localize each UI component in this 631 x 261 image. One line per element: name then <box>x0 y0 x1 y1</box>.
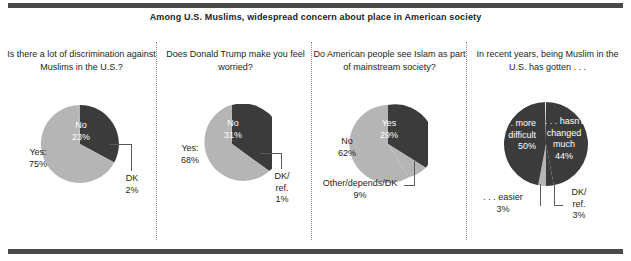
leader-line-other-v <box>414 161 415 186</box>
leader-line-dk-h <box>109 144 132 145</box>
bottom-rule <box>8 249 623 254</box>
slice-label-easier: . . . easier 3% <box>472 192 534 215</box>
leader-line-dkref-v <box>554 184 555 206</box>
chart-figure: Among U.S. Muslims, widespread concern a… <box>0 0 631 261</box>
pie-panel-being-muslim-gotten: In recent years, being Muslim in the U.S… <box>470 42 625 242</box>
pie-chart-discrimination <box>40 104 120 184</box>
slice-label-yes: Yes 29% <box>368 118 410 141</box>
slice-label-no: No 31% <box>211 118 255 141</box>
panel-question: Is there a lot of discrimination against… <box>4 48 159 74</box>
leader-line-dkref-h <box>260 153 282 154</box>
slice-label-yes: Yes: 68% <box>168 143 212 166</box>
slice-label-more-difficult: . . . more difficult 50% <box>492 118 536 153</box>
leader-line-dk-v <box>131 144 132 171</box>
slice-label-other-depends-dk: Other/depends/DK 9% <box>314 178 406 201</box>
slice-label-dk-ref: DK/ ref. 1% <box>264 171 300 206</box>
top-rule <box>8 3 623 8</box>
pie-panel-discrimination: Is there a lot of discrimination against… <box>4 42 159 242</box>
leader-line-dkref-v <box>281 153 282 169</box>
panel-question: Does Donald Trump make you feel worried? <box>158 48 313 74</box>
slice-label-dk-ref: DK/ ref. 3% <box>562 187 596 222</box>
slice-label-yes: Yes: 75% <box>16 147 60 170</box>
pie-panel-mainstream-society: Do American people see Islam as part of … <box>312 42 467 242</box>
leader-line-easier-v <box>540 184 541 206</box>
slice-label-no: No 23% <box>58 120 104 143</box>
panel-question: In recent years, being Muslim in the U.S… <box>470 48 625 74</box>
slice-label-dk: DK 2% <box>114 173 150 196</box>
panel-question: Do American people see Islam as part of … <box>312 48 467 74</box>
chart-title: Among U.S. Muslims, widespread concern a… <box>0 12 631 22</box>
slice-label-hasnt-changed-much: . . . hasn't changed much 44% <box>540 116 588 162</box>
pie-panel-trump-worried: Does Donald Trump make you feel worried?… <box>158 42 313 242</box>
slice-label-no: No 62% <box>326 136 368 159</box>
